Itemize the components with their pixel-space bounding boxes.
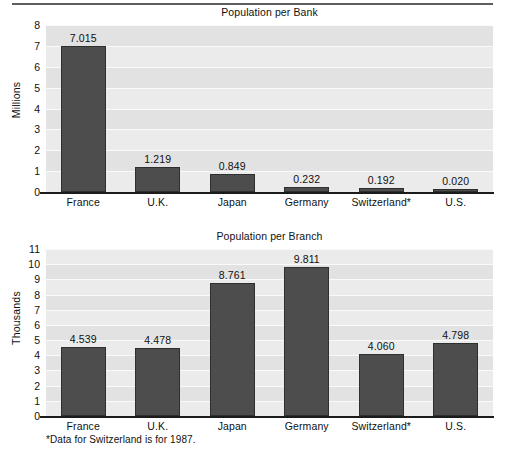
bar-value-label: 0.192: [341, 175, 421, 186]
gridline: [46, 386, 493, 387]
bar-value-label: 0.020: [416, 176, 496, 187]
bar-value-label: 4.060: [341, 341, 421, 352]
y-tick-label: 5: [0, 83, 40, 93]
y-tick-label: 6: [0, 320, 40, 330]
gridline: [46, 109, 493, 110]
figure-canvas: Population per Bank Millions 012345678 7…: [0, 0, 505, 456]
y-tick-label: 6: [0, 62, 40, 72]
bar: [135, 348, 180, 416]
y-tick-label: 11: [0, 244, 40, 254]
chart-population-per-bank: Population per Bank Millions 012345678 7…: [0, 6, 505, 218]
x-category-label: U.S.: [411, 196, 501, 208]
gridline: [46, 150, 493, 151]
y-tick-label: 4: [0, 104, 40, 114]
y-tick-label: 4: [0, 350, 40, 360]
x-category-label: U.S.: [411, 420, 501, 432]
bar: [359, 354, 404, 416]
bar: [61, 347, 106, 416]
bar-value-label: 0.232: [267, 174, 347, 185]
y-tick-label: 5: [0, 335, 40, 345]
y-tick-label: 2: [0, 381, 40, 391]
y-tick-label: 7: [0, 305, 40, 315]
bar: [210, 283, 255, 416]
gridline: [46, 401, 493, 402]
y-tick-label: 1: [0, 166, 40, 176]
gridline: [46, 249, 493, 250]
gridline: [46, 129, 493, 130]
gridline: [46, 88, 493, 89]
gridline: [46, 46, 493, 47]
y-tick-label: 1: [0, 396, 40, 406]
y-tick-label: 2: [0, 145, 40, 155]
bar-value-label: 4.539: [43, 334, 123, 345]
chart-population-per-branch: Population per Branch Thousands 01234567…: [0, 230, 505, 442]
y-tick-label: 9: [0, 274, 40, 284]
bar-value-label: 8.761: [192, 270, 272, 281]
y-tick-label: 10: [0, 259, 40, 269]
bar-value-label: 4.478: [118, 335, 198, 346]
y-tick-label: 8: [0, 290, 40, 300]
gridline: [46, 325, 493, 326]
bar-value-label: 4.798: [416, 330, 496, 341]
y-tick-label: 0: [0, 411, 40, 421]
x-axis-line: [40, 192, 494, 194]
bar: [135, 167, 180, 192]
gridline: [46, 355, 493, 356]
y-tick-label: 0: [0, 187, 40, 197]
plot-band: [46, 295, 493, 310]
x-axis-line: [40, 416, 494, 418]
chart-title: Population per Branch: [46, 230, 493, 242]
bar-value-label: 1.219: [118, 154, 198, 165]
gridline: [46, 370, 493, 371]
bar: [61, 46, 106, 192]
gridline: [46, 67, 493, 68]
chart-title: Population per Bank: [46, 6, 493, 18]
plot-band: [46, 67, 493, 88]
bar-value-label: 9.811: [267, 254, 347, 265]
y-tick-label: 8: [0, 20, 40, 30]
y-tick-label: 3: [0, 365, 40, 375]
footnote: *Data for Switzerland is for 1987.: [46, 434, 196, 445]
bar-value-label: 0.849: [192, 161, 272, 172]
top-divider-rule: [12, 3, 493, 5]
y-tick-label: 3: [0, 124, 40, 134]
gridline: [46, 295, 493, 296]
plot-band: [46, 386, 493, 401]
plot-band: [46, 355, 493, 370]
bar: [210, 174, 255, 192]
y-axis-label: Millions: [10, 70, 22, 130]
y-tick-label: 7: [0, 41, 40, 51]
plot-band: [46, 109, 493, 130]
bar: [284, 267, 329, 416]
bar-value-label: 7.015: [43, 33, 123, 44]
gridline: [46, 310, 493, 311]
bar: [433, 343, 478, 416]
gridline: [46, 25, 493, 26]
